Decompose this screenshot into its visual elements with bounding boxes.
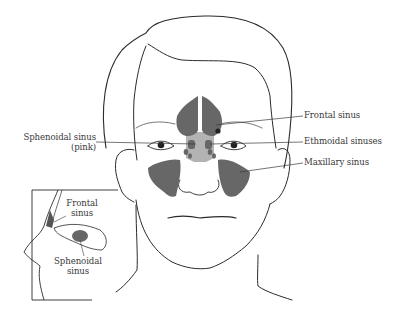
left-eyebrow [136, 122, 175, 128]
nose [178, 180, 219, 195]
inset-label-frontal-2: sinus [62, 209, 102, 218]
right-ear [270, 148, 290, 204]
leader-maxillary [240, 163, 303, 172]
ethmoidal-right [205, 140, 212, 149]
left-pupil [158, 142, 165, 149]
inset-frontal-shape [46, 210, 54, 228]
jaw-line [136, 200, 270, 269]
right-eyebrow [220, 122, 262, 128]
left-ear [115, 149, 134, 202]
maxillary-sinus-left [148, 159, 181, 196]
label-sphenoidal-note: (pink) [18, 143, 96, 152]
leader-sphenoidal [96, 142, 196, 144]
mouth [168, 216, 236, 218]
label-maxillary-sinus: Maxillary sinus [304, 158, 369, 167]
inset-label-frontal: Frontal [62, 199, 102, 208]
inset-label-sphenoidal: Sphenoidal [48, 257, 108, 266]
ethmoidal-left [188, 140, 195, 149]
leader-frontal [216, 116, 303, 125]
inset-label-sphenoidal-2: sinus [48, 267, 108, 276]
label-sphenoidal-sinus: Sphenoidal sinus [18, 133, 96, 142]
maxillary-sinus-right [218, 160, 250, 197]
frontal-sinus-left [176, 96, 198, 136]
label-frontal-sinus: Frontal sinus [304, 111, 360, 120]
label-ethmoidal-sinuses: Ethmoidal sinuses [304, 137, 382, 146]
right-pupil [231, 142, 238, 149]
neck-left [116, 205, 137, 292]
neck-right [258, 255, 292, 300]
